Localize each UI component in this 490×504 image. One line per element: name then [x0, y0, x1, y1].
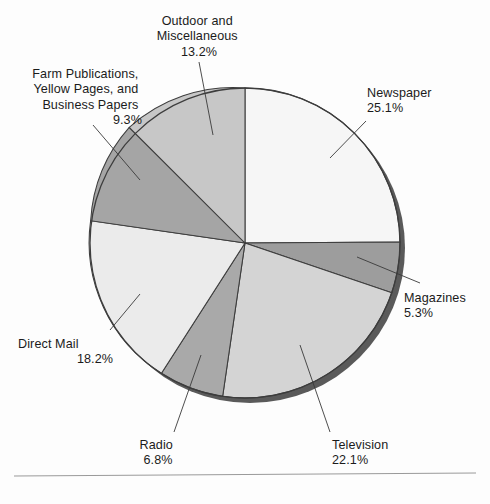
- label-outdoor-line1: Outdoor and: [162, 14, 233, 28]
- label-radio: Radio 6.8%: [139, 438, 176, 467]
- label-radio-line1: Radio: [139, 438, 172, 452]
- label-farm-value: 9.3%: [113, 113, 142, 127]
- label-direct-mail: Direct Mail: [18, 337, 79, 351]
- label-television-line1: Television: [332, 438, 388, 452]
- label-direct-mail-line1: Direct Mail: [18, 337, 79, 351]
- label-newspaper-line1: Newspaper: [367, 86, 432, 100]
- label-outdoor-value: 13.2%: [181, 45, 217, 59]
- label-magazines-value: 5.3%: [404, 306, 433, 320]
- label-farm-line1: Farm Publications,: [32, 67, 138, 81]
- label-outdoor-line2: Miscellaneous: [157, 29, 238, 43]
- label-farm-line2: Yellow Pages, and: [34, 82, 139, 96]
- label-farm-line3: Business Papers: [42, 98, 138, 112]
- label-direct-mail-value: 18.2%: [77, 352, 113, 366]
- pie-chart-figure: Outdoor and Miscellaneous 13.2% Farm Pub…: [0, 0, 490, 504]
- label-radio-value: 6.8%: [143, 453, 172, 467]
- label-magazines-line1: Magazines: [404, 291, 466, 305]
- label-direct-mail-value-row: 18.2%: [77, 352, 113, 366]
- label-newspaper-value: 25.1%: [367, 101, 403, 115]
- pie-chart-svg: Outdoor and Miscellaneous 13.2% Farm Pub…: [0, 0, 490, 504]
- label-television-value: 22.1%: [332, 453, 368, 467]
